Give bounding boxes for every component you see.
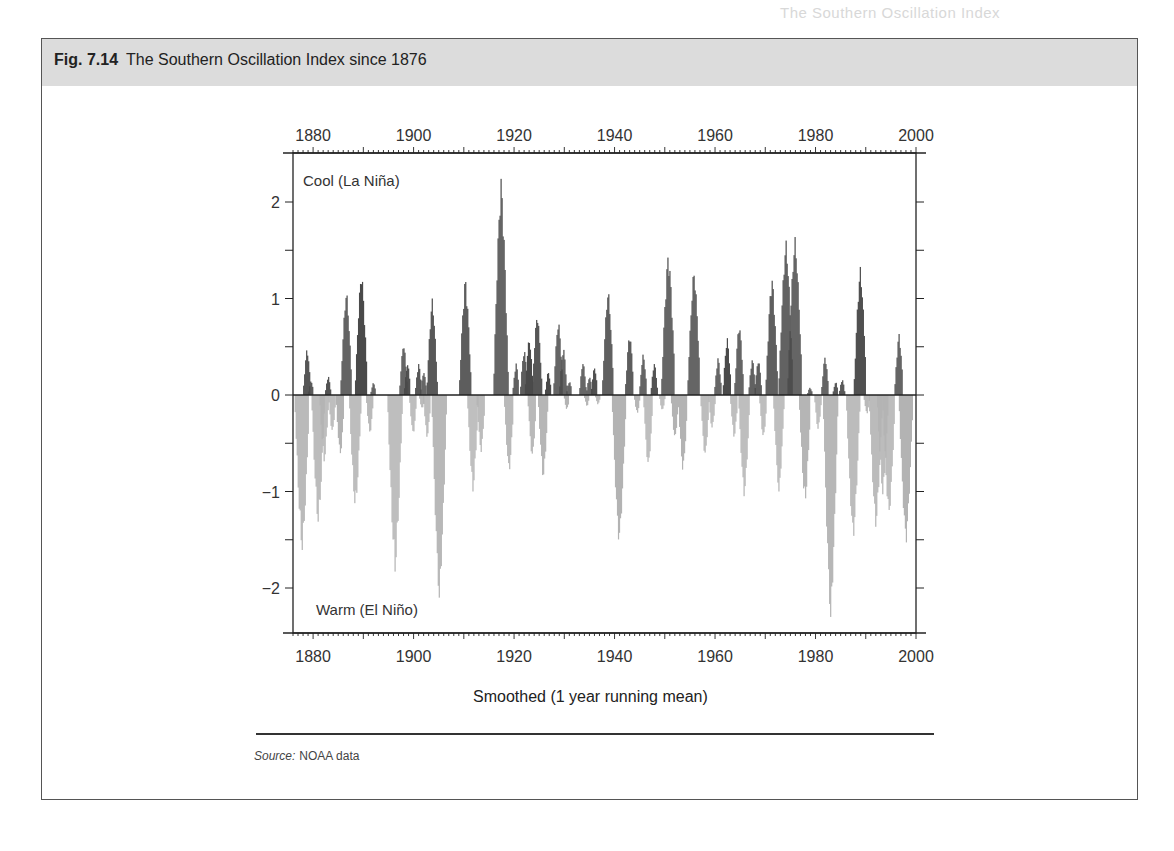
soi-bar (837, 395, 838, 417)
x-tick-label-bottom: 1880 (295, 648, 331, 665)
soi-bar (470, 372, 471, 395)
soi-bar (599, 395, 600, 400)
soi-bar (837, 388, 838, 396)
soi-bar (446, 395, 447, 415)
soi-bar (415, 395, 416, 409)
x-tick-label-top: 1980 (798, 127, 834, 144)
soi-bar (568, 395, 569, 405)
soi-bar (761, 385, 762, 395)
soi-bar (350, 369, 351, 395)
soi-bar (827, 381, 828, 395)
x-tick-label-top: 1940 (597, 127, 633, 144)
bar-series (295, 179, 913, 617)
soi-bar (596, 380, 597, 395)
x-tick-label-top: 2000 (898, 127, 934, 144)
soi-bar (865, 357, 866, 395)
y-tick-label: 2 (271, 194, 280, 211)
source-text: NOAA data (299, 749, 359, 763)
soi-bar (375, 388, 376, 395)
soi-bar (730, 374, 731, 395)
soi-bar (742, 374, 743, 395)
soi-bar (570, 386, 571, 395)
soi-bar (508, 372, 509, 395)
soi-bar (673, 354, 674, 395)
soi-bar (312, 387, 313, 395)
soi-bar (651, 395, 652, 416)
x-tick-label-bottom: 1920 (496, 648, 532, 665)
soi-bar (425, 385, 426, 395)
source-label: Source: (254, 749, 295, 763)
soi-bar (820, 395, 821, 405)
y-tick-label: 1 (271, 291, 280, 308)
soi-bar (334, 395, 335, 407)
soi-bar (330, 389, 331, 395)
soi-bar (809, 395, 810, 430)
soi-bar (699, 358, 700, 395)
soi-bar (677, 395, 678, 414)
soi-bar (547, 395, 548, 412)
x-tick-label-bottom: 1960 (697, 648, 733, 665)
soi-bar (748, 395, 749, 415)
soi-bar (859, 395, 860, 412)
soi-bar (360, 395, 361, 414)
chart-caption: Smoothed (1 year running mean) (473, 688, 708, 706)
x-tick-label-bottom: 1980 (798, 648, 834, 665)
x-tick-label-top: 1900 (396, 127, 432, 144)
soi-bar (588, 395, 589, 401)
x-tick-label-bottom: 1940 (597, 648, 633, 665)
soi-bar (632, 372, 633, 395)
soi-chart: 1880188019001900192019201940194019601960… (0, 0, 1174, 851)
soi-bar (409, 379, 410, 395)
y-tick-label: −1 (262, 484, 280, 501)
x-tick-label-top: 1960 (697, 127, 733, 144)
soi-bar (801, 354, 802, 395)
soi-bar (736, 395, 737, 413)
soi-bar (437, 382, 438, 395)
soi-bar (429, 395, 430, 413)
soi-bar (912, 395, 913, 420)
soi-bar (366, 362, 367, 395)
soi-bar (714, 395, 715, 404)
soi-bar (612, 368, 613, 395)
soi-bar (484, 395, 485, 416)
soi-bar (894, 395, 895, 424)
soi-bar (902, 369, 903, 395)
soi-bar (783, 395, 784, 409)
soi-bar (535, 395, 536, 421)
soi-bar (372, 395, 373, 408)
soi-bar (639, 395, 640, 401)
soi-bar (686, 395, 687, 421)
annotation-warm: Warm (El Niño) (316, 601, 418, 618)
x-tick-label-bottom: 2000 (898, 648, 934, 665)
y-tick-label: 0 (271, 387, 280, 404)
soi-bar (720, 383, 721, 395)
soi-bar (625, 395, 626, 419)
soi-bar (657, 388, 658, 395)
soi-bar (343, 395, 344, 419)
x-tick-label-top: 1920 (496, 127, 532, 144)
soi-bar (541, 379, 542, 395)
soi-bar (308, 395, 309, 434)
soi-bar (550, 385, 551, 395)
x-tick-label-top: 1880 (295, 127, 331, 144)
soi-bar (512, 395, 513, 425)
soi-bar (518, 380, 519, 395)
x-tick-label-bottom: 1900 (396, 648, 432, 665)
source-note: Source:NOAA data (254, 749, 359, 763)
source-divider (256, 733, 934, 735)
soi-bar (777, 371, 778, 395)
soi-bar (765, 395, 766, 414)
soi-bar (401, 395, 402, 414)
annotation-cool: Cool (La Niña) (303, 172, 400, 189)
soi-bar (645, 379, 646, 395)
y-tick-label: −2 (262, 580, 280, 597)
